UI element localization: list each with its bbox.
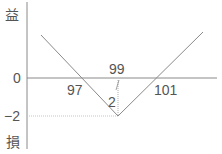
y-axis-top-label: 益 [5,7,19,23]
payoff-diagram: 益 損 0 −2 97 99 101 2 [0,0,222,154]
left-breakeven-label: 97 [67,82,83,98]
strike-label: 99 [109,61,125,77]
y-tick-min: −2 [4,108,20,124]
y-axis-bottom-label: 損 [6,134,20,150]
premium-label: 2 [108,94,116,110]
right-breakeven-label: 101 [154,82,178,98]
y-tick-zero: 0 [13,70,21,86]
